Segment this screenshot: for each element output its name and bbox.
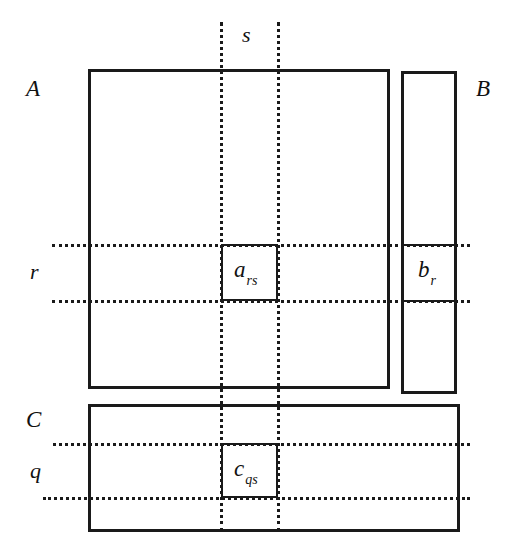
matrix-block-diagram: A B C s r q ars br cqs: [0, 0, 518, 559]
index-label-q: q: [30, 460, 41, 482]
entry-label-c-qs: cqs: [234, 457, 257, 483]
matrix-b-box: [401, 71, 457, 394]
index-label-r: r: [30, 261, 39, 283]
matrix-b-label: B: [476, 77, 490, 100]
matrix-b-row-divider-top: [401, 244, 457, 246]
matrix-a-label: A: [26, 77, 40, 100]
entry-a-subscript: rs: [247, 273, 258, 288]
matrix-a-box: [88, 69, 390, 389]
entry-a-base: a: [234, 257, 246, 282]
entry-label-a-rs: ars: [234, 258, 256, 284]
entry-b-subscript: r: [431, 273, 436, 288]
entry-c-subscript: qs: [245, 472, 257, 487]
matrix-c-label: C: [26, 408, 41, 431]
entry-b-base: b: [418, 257, 430, 282]
entry-label-b-r: br: [418, 258, 435, 284]
index-label-s: s: [242, 24, 251, 46]
entry-c-base: c: [234, 456, 244, 481]
matrix-b-row-divider-bottom: [401, 300, 457, 302]
